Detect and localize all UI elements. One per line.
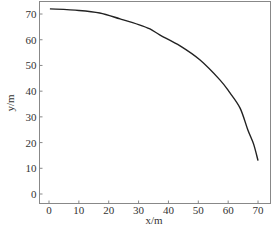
y-tick-label: 50 — [26, 59, 38, 71]
x-tick-label: 70 — [253, 204, 265, 216]
x-tick-label: 20 — [103, 204, 115, 216]
x-tick-label: 30 — [133, 204, 145, 216]
y-tick-label: 60 — [26, 34, 38, 46]
y-axis-label: y/m — [4, 94, 16, 112]
y-tick-label: 70 — [26, 8, 38, 20]
y-tick-label: 40 — [26, 85, 38, 97]
x-axis-label: x/m — [145, 214, 163, 226]
x-tick-label: 60 — [223, 204, 235, 216]
trajectory-chart: 010203040506070 010203040506070 x/m y/m — [0, 0, 280, 235]
x-tick-label: 0 — [46, 204, 52, 216]
trajectory-line — [50, 9, 258, 161]
y-tick-label: 10 — [26, 162, 38, 174]
y-tick-label: 20 — [26, 137, 38, 149]
y-tick-label: 30 — [26, 111, 38, 123]
x-tick-label: 40 — [163, 204, 175, 216]
y-tick-label: 0 — [31, 188, 37, 200]
x-tick-label: 10 — [73, 204, 85, 216]
x-tick-label: 50 — [193, 204, 205, 216]
